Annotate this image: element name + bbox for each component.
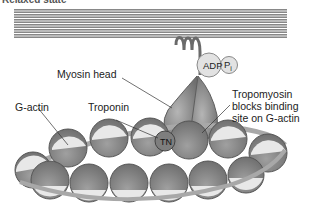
adp-label: ADP <box>203 60 223 72</box>
tn-label: TN <box>160 136 172 148</box>
g-actin-label: G-actin <box>15 101 49 113</box>
tropomyosin-label: Tropomyosin blocks binding site on G-act… <box>232 88 300 124</box>
myosin-head-label: Myosin head <box>57 68 117 80</box>
pi-label: Pi <box>224 59 232 75</box>
leader-myosin-head <box>122 78 172 108</box>
thick-filament <box>14 9 287 38</box>
myosin-neck <box>176 38 200 75</box>
troponin-label: Troponin <box>88 101 129 113</box>
